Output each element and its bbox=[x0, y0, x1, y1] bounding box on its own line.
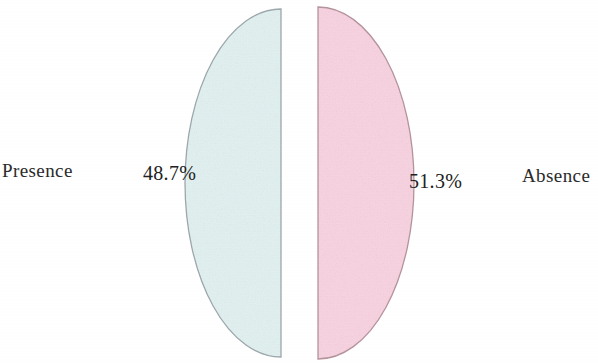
slice-label-presence: Presence bbox=[2, 161, 73, 180]
slice-value-absence: 51.3% bbox=[409, 171, 462, 191]
pie-chart-svg bbox=[0, 0, 598, 363]
pie-chart-figure: Presence Absence 48.7% 51.3% bbox=[0, 0, 598, 363]
pie-slice-presence[interactable] bbox=[185, 9, 281, 357]
slice-value-presence: 48.7% bbox=[143, 163, 196, 183]
slice-label-absence: Absence bbox=[522, 166, 590, 185]
pie-slice-absence[interactable] bbox=[318, 7, 414, 359]
chart-plot-area: Presence Absence 48.7% 51.3% bbox=[0, 0, 598, 363]
